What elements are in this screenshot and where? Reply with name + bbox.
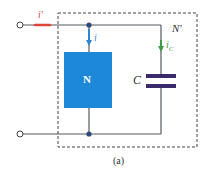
block-label: N <box>83 73 91 85</box>
figure-caption: (a) <box>113 155 124 166</box>
capacitor-plate-bottom-icon <box>146 84 176 88</box>
bottom-terminal <box>17 131 23 137</box>
capacitor-label: C <box>133 73 141 88</box>
top-terminal <box>17 22 23 28</box>
top-junction-node <box>86 22 91 27</box>
capacitor-current-label: iC <box>166 39 173 53</box>
input-current-label: i' <box>38 9 43 20</box>
bottom-junction-node <box>86 131 91 136</box>
capacitor-plate-top-icon <box>146 74 176 78</box>
block-current-label: i <box>94 32 97 43</box>
subnetwork-label: N' <box>172 22 182 34</box>
